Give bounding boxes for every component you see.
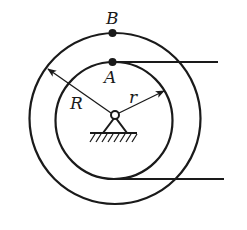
stepped-pulley-diagram: B A R r: [0, 0, 247, 230]
point-a-dot: [109, 58, 117, 66]
pin-support: [90, 111, 137, 142]
label-r: r: [129, 87, 138, 107]
label-b: B: [105, 8, 119, 28]
label-a: A: [102, 67, 116, 87]
radius-r-arrow: [119, 91, 164, 113]
label-R: R: [69, 93, 83, 113]
point-b-dot: [109, 29, 117, 37]
pivot-pin: [111, 111, 119, 119]
ground-hatch: [90, 134, 137, 142]
